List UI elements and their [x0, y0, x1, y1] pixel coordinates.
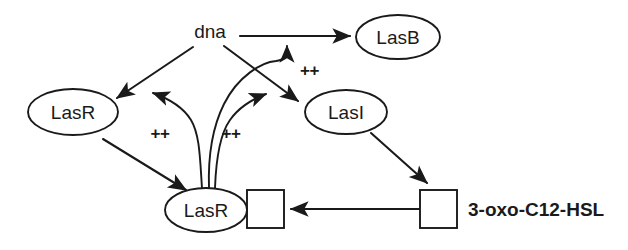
node-lasi[interactable]: LasI	[305, 90, 387, 134]
node-lasr[interactable]: LasR	[28, 89, 118, 135]
edge-lasr-to-lasr-complex	[103, 139, 186, 190]
annotation-plus-dna: ++	[300, 61, 319, 80]
annotation-plus-lasi: ++	[222, 124, 241, 143]
node-lasb-label: LasB	[376, 27, 419, 48]
edge-complex-activates-dna	[209, 46, 287, 188]
edge-dna-to-lasi	[224, 46, 298, 101]
node-lasi-label: LasI	[328, 102, 364, 123]
node-lasr-complex-label: LasR	[184, 200, 228, 221]
edge-dna-to-lasr	[117, 47, 193, 98]
regulatory-network-diagram: dna LasB LasR LasI LasR 3-oxo-C12-HSL	[0, 0, 628, 250]
node-dna[interactable]: dna	[194, 21, 226, 42]
annotation-plus-lasr: ++	[151, 124, 170, 143]
node-hsl[interactable]: 3-oxo-C12-HSL	[420, 190, 605, 228]
node-hsl-label: 3-oxo-C12-HSL	[468, 199, 605, 220]
lasr-complex-bound-molecule-square	[247, 190, 284, 228]
node-dna-label: dna	[194, 21, 226, 42]
node-lasb[interactable]: LasB	[356, 15, 440, 59]
edge-lasi-to-hsl	[371, 133, 427, 183]
diagram-canvas: dna LasB LasR LasI LasR 3-oxo-C12-HSL	[0, 0, 628, 250]
hsl-square	[420, 190, 457, 228]
node-lasr-complex[interactable]: LasR	[165, 188, 284, 232]
node-lasr-label: LasR	[51, 102, 95, 123]
